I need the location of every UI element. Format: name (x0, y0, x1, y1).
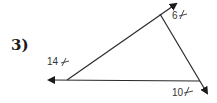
triangle-diagram: 3) 14 6 10 (0, 0, 217, 103)
angle-value-left: 14 (47, 56, 59, 67)
side-left-ray (67, 4, 176, 80)
side-bottom-ray (49, 80, 200, 81)
angle-value-top: 6 (172, 10, 178, 21)
angle-symbol-icon (61, 58, 69, 66)
angle-label-top: 6 (172, 10, 187, 21)
problem-number: 3) (11, 36, 29, 54)
angle-value-bottom-right: 10 (172, 87, 184, 98)
angle-label-left: 14 (47, 56, 69, 67)
angle-symbol-icon (179, 10, 187, 19)
angle-symbol-icon (184, 87, 193, 96)
angle-label-bottom-right: 10 (172, 87, 193, 98)
